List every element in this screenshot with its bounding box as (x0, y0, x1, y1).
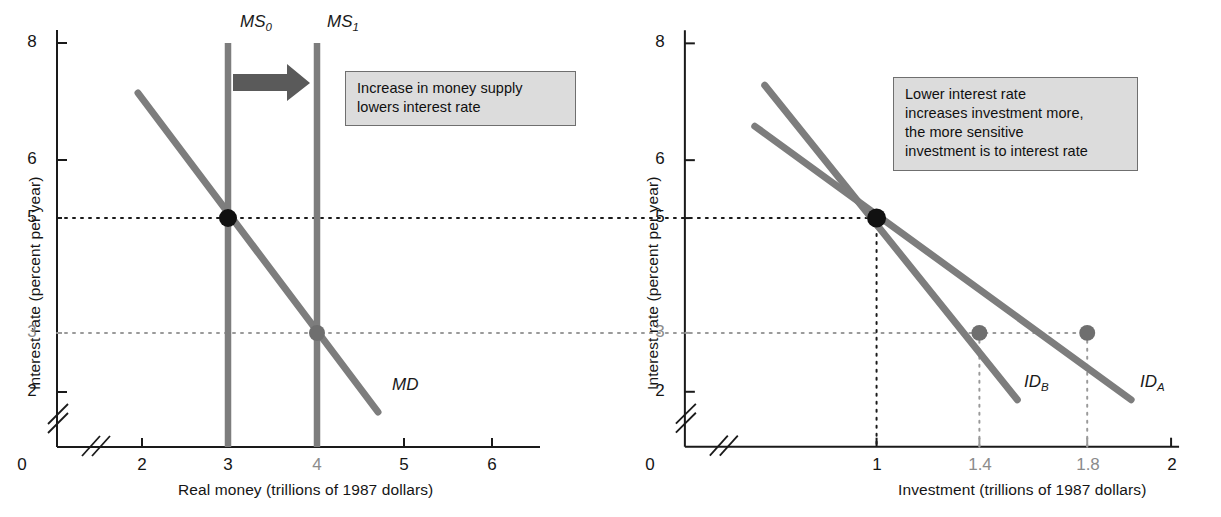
ms0-label-subscript: 0 (266, 21, 272, 33)
shift-arrow-right-icon (233, 64, 310, 101)
money-market-panel: Interest rate (percent per year) 8 6 5 3… (0, 0, 610, 517)
money-callout-box: Increase in money supply lowers interest… (345, 71, 576, 126)
marker-dot-ida-3-percent (1079, 325, 1095, 341)
investment-origin-label: 0 (638, 455, 662, 475)
money-y-tick-label-3: 3 (20, 322, 44, 342)
ms1-label-subscript: 1 (353, 21, 359, 33)
idb-label-subscript: B (1041, 381, 1049, 393)
money-x-tick-label-3: 3 (216, 455, 240, 475)
ida-curve-label: IDA (1140, 372, 1165, 393)
money-origin-label: 0 (10, 455, 34, 475)
idb-curve-label: IDB (1024, 372, 1049, 393)
investment-x-tick-label-1-4: 1.4 (960, 455, 1000, 475)
investment-y-tick-label-5: 5 (648, 207, 672, 227)
equilibrium-dot-new (309, 325, 325, 341)
idb-label-text: ID (1024, 372, 1041, 391)
marker-dot-common-point (867, 209, 886, 228)
figure-root: Interest rate (percent per year) 8 6 5 3… (0, 0, 1221, 517)
money-y-tick-label-8: 8 (20, 32, 44, 52)
investment-demand-panel: Interest rate (percent per year) 8 6 5 3… (610, 0, 1220, 517)
investment-x-tick-label-1-8: 1.8 (1068, 455, 1108, 475)
investment-y-tick-label-6: 6 (648, 149, 672, 169)
investment-y-tick-label-2: 2 (648, 381, 672, 401)
ms1-curve-label: MS1 (327, 12, 359, 33)
investment-y-tick-label-8: 8 (648, 32, 672, 52)
money-y-tick-label-2: 2 (20, 381, 44, 401)
money-x-tick-label-5: 5 (392, 455, 416, 475)
money-x-tick-label-2: 2 (130, 455, 154, 475)
money-y-tick-label-6: 6 (20, 149, 44, 169)
equilibrium-dot-initial (219, 209, 237, 227)
investment-x-tick-label-2: 2 (1160, 455, 1184, 475)
ms0-label-text: MS (240, 12, 266, 31)
ida-label-text: ID (1140, 372, 1157, 391)
investment-x-axis-title: Investment (trillions of 1987 dollars) (898, 481, 1146, 499)
marker-dot-idb-3-percent (971, 325, 987, 341)
md-curve-label: MD (392, 375, 418, 395)
money-y-tick-label-5: 5 (20, 207, 44, 227)
ida-label-subscript: A (1157, 381, 1165, 393)
ms1-label-text: MS (327, 12, 353, 31)
investment-callout-box: Lower interest rate increases investment… (893, 77, 1138, 171)
investment-y-tick-label-3: 3 (648, 322, 672, 342)
money-x-tick-label-6: 6 (480, 455, 504, 475)
money-x-axis-title: Real money (trillions of 1987 dollars) (178, 481, 433, 499)
ms0-curve-label: MS0 (240, 12, 272, 33)
investment-x-tick-label-1: 1 (865, 455, 889, 475)
money-x-tick-label-4: 4 (305, 455, 329, 475)
money-demand-curve (138, 93, 378, 412)
